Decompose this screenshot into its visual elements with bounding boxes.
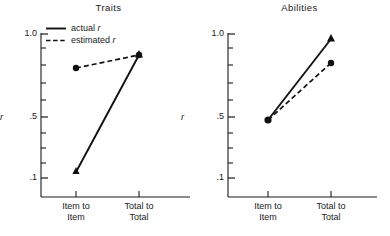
marker-estimated-total-to-total-traits bbox=[136, 52, 142, 58]
legend-symbol-estimated: r bbox=[113, 35, 116, 45]
figure-two-panel-line-charts: Traits bbox=[0, 0, 390, 236]
marker-actual-total-to-total-abilities bbox=[327, 34, 335, 42]
series-line-estimated-abilities bbox=[268, 63, 331, 120]
solid-line-icon bbox=[46, 24, 66, 33]
y-tick-label-0-5-traits: .5 bbox=[5, 111, 37, 121]
y-axis-label-abilities: r bbox=[181, 111, 184, 122]
series-line-actual-traits bbox=[76, 55, 139, 172]
legend-label-actual: actual r bbox=[71, 22, 101, 34]
legend-label-estimated-text: estimated bbox=[71, 35, 110, 45]
series-line-actual-abilities bbox=[268, 39, 331, 120]
marker-estimated-total-to-total-abilities bbox=[328, 60, 334, 66]
x-tick-label-total-to-total-traits: Total to Total bbox=[101, 201, 177, 223]
panel-traits: Traits bbox=[0, 0, 195, 236]
series-line-estimated-traits bbox=[76, 55, 139, 68]
x-tick-label-total-to-total-abilities: Total to Total bbox=[293, 201, 369, 223]
y-axis-label-traits: r bbox=[0, 111, 3, 122]
legend-symbol-actual: r bbox=[98, 23, 101, 33]
y-tick-label-1-0-abilities: 1.0 bbox=[192, 28, 224, 38]
y-tick-label-0-5-abilities: .5 bbox=[192, 111, 224, 121]
legend-label-actual-text: actual bbox=[71, 23, 95, 33]
dashed-line-icon bbox=[46, 36, 66, 45]
y-tick-label-0-1-traits: .1 bbox=[5, 172, 37, 182]
x-tick-label-line1: Total to bbox=[101, 201, 177, 212]
y-tick-label-0-1-abilities: .1 bbox=[192, 172, 224, 182]
marker-item-to-item-abilities bbox=[264, 116, 271, 123]
legend: actual r estimated r bbox=[46, 22, 116, 46]
x-tick-label-line1: Total to bbox=[293, 201, 369, 212]
x-tick-label-line2: Total bbox=[101, 212, 177, 223]
y-tick-label-1-0-traits: 1.0 bbox=[5, 28, 37, 38]
legend-entry-actual: actual r bbox=[46, 22, 116, 34]
legend-label-estimated: estimated r bbox=[71, 34, 116, 46]
legend-entry-estimated: estimated r bbox=[46, 34, 116, 46]
x-tick-label-line2: Total bbox=[293, 212, 369, 223]
panel-abilities: Abilities 1.0 .5 .1 bbox=[195, 0, 390, 236]
marker-estimated-item-to-item-traits bbox=[73, 65, 79, 71]
